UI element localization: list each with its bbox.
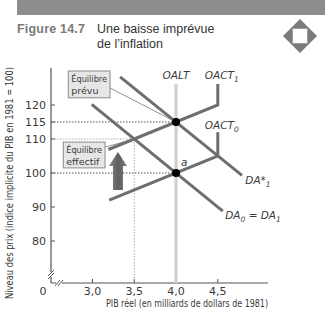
- x-tick-label: 4,0: [167, 285, 185, 298]
- curve-oact1: [108, 84, 217, 150]
- annotation-line-2: prévu: [71, 85, 98, 96]
- curve-label: DA0 = DA1: [225, 209, 281, 224]
- curve-label: OACT1: [205, 69, 239, 84]
- curve-label-subscript-2: 1: [276, 215, 281, 224]
- curve-label-subscript: 1: [266, 180, 271, 189]
- annotation-line-1: Équilibre: [66, 144, 102, 155]
- x-axis-title: PIB réel (en milliards de dollars de 198…: [106, 298, 268, 309]
- curve-label: OACT0: [205, 119, 239, 134]
- origin-label: 0: [40, 285, 47, 298]
- curve-label-subscript: 0: [234, 125, 239, 134]
- annotation-line-2: effectif: [66, 156, 100, 167]
- curve-label-main-2: = DA: [245, 209, 276, 221]
- up-arrow-icon: [109, 152, 127, 190]
- point-label: a: [181, 156, 187, 168]
- x-tick-label: 3,5: [126, 285, 144, 298]
- curve-label-main: OACT: [205, 119, 236, 131]
- chart: 12011511010090803,03,54,04,50PIB réel (e…: [0, 0, 330, 314]
- x-tick-label: 3,0: [84, 285, 102, 298]
- y-tick-label: 110: [25, 133, 46, 146]
- curve-label-main: OACT: [205, 69, 236, 81]
- curve-da0-da1: [92, 104, 223, 211]
- leader-line: [110, 88, 176, 122]
- curve-label-main: OALT: [163, 69, 192, 81]
- y-tick-label: 80: [32, 235, 46, 248]
- labels: OALTOACT1OACT0DA*1DA0 = DA1a: [163, 69, 281, 224]
- annotation-line-1: Équilibre: [71, 73, 107, 84]
- expected-equilibrium-marker: [172, 118, 180, 126]
- point-a-marker: [172, 169, 180, 177]
- curve-label-main: DA: [225, 209, 240, 221]
- annotations: ÉquilibreprévuÉquilibreeffectif: [63, 71, 176, 190]
- curve-label: OALT: [163, 69, 192, 81]
- y-tick-label: 120: [25, 99, 46, 112]
- y-tick-label: 90: [32, 201, 46, 214]
- y-axis-title: Niveau des prix (indice implicite du PIB…: [4, 67, 15, 299]
- x-tick-label: 4,5: [209, 285, 227, 298]
- curve-label: DA*1: [245, 174, 270, 189]
- y-tick-label: 115: [25, 116, 46, 129]
- y-tick-label: 100: [25, 167, 46, 180]
- curve-label-main: DA*: [245, 174, 266, 186]
- curve-label-subscript: 1: [234, 75, 239, 84]
